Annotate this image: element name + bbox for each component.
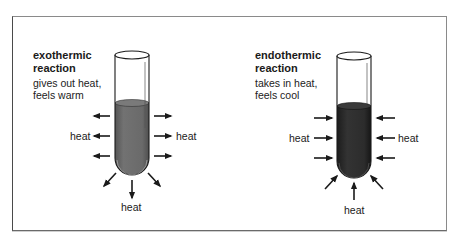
endothermic-liquid <box>337 106 371 178</box>
reaction-diagram <box>0 0 454 241</box>
exothermic-tube-rim <box>115 51 149 59</box>
exothermic-liquid <box>115 103 149 175</box>
arrow-down-right-icon <box>148 173 160 186</box>
endothermic-liquid-surface <box>337 103 371 110</box>
exothermic-liquid-surface <box>115 100 149 107</box>
endothermic-test-tube <box>337 52 371 178</box>
endothermic-tube-rim <box>337 52 371 60</box>
exothermic-test-tube <box>115 51 149 175</box>
arrow-down-left-icon <box>104 173 116 186</box>
arrow-up-right-icon <box>325 176 337 189</box>
arrow-up-left-icon <box>371 176 383 189</box>
